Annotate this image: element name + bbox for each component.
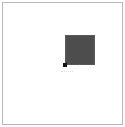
drag-trace (61, 71, 73, 73)
resize-handle-icon[interactable] (63, 63, 67, 67)
drawing-canvas[interactable] (2, 2, 123, 125)
selected-square-shape[interactable] (65, 35, 95, 65)
